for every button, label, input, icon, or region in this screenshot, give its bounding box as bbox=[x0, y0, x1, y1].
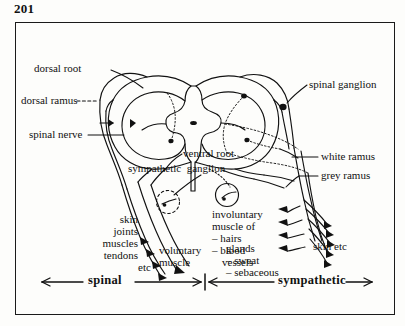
label-glands-sweat: – sweat bbox=[226, 255, 259, 267]
footer-label-spinal: spinal bbox=[88, 275, 122, 287]
sympathetic-chain-trunk bbox=[294, 148, 327, 252]
label-ventral-root: ventral root bbox=[183, 148, 234, 160]
label-skin-etc-right: skin etc bbox=[313, 241, 347, 253]
cord-outline-left bbox=[108, 76, 191, 169]
postganglionic-fibres-targets bbox=[278, 206, 305, 252]
label-target-muscles: muscles bbox=[85, 238, 138, 250]
label-dorsal-root: dorsal root bbox=[34, 63, 81, 75]
label-voluntary-muscle-line1: voluntary muscle bbox=[159, 245, 201, 268]
label-spinal-ganglion: spinal ganglion bbox=[309, 79, 377, 91]
figure-frame: dorsal root dorsal ramus spinal nerve ve… bbox=[15, 22, 395, 315]
label-involuntary-muscle-line1: involuntary bbox=[212, 209, 263, 221]
label-grey-ramus: grey ramus bbox=[321, 170, 370, 182]
page-canvas: 201 bbox=[0, 0, 405, 326]
label-glands-sebaceous: – sebaceous bbox=[226, 267, 279, 279]
label-involuntary-muscle-line2: muscle of bbox=[212, 221, 255, 233]
label-target-tendons: tendons bbox=[82, 250, 138, 262]
footer-label-sympathetic: sympathetic bbox=[278, 275, 346, 287]
label-white-ramus: white ramus bbox=[321, 151, 375, 163]
page-number: 201 bbox=[14, 1, 34, 17]
grey-matter-outline bbox=[166, 86, 221, 191]
label-dorsal-ramus: dorsal ramus bbox=[21, 95, 78, 107]
internal-tracts bbox=[167, 93, 308, 173]
dorsal-ramus-branch bbox=[100, 119, 114, 127]
label-sympathetic-ganglion: sympathetic ganglion bbox=[128, 163, 225, 175]
sympathetic-ganglion-left-dashed bbox=[157, 191, 180, 214]
dorsal-root-pathway-right bbox=[240, 75, 294, 149]
label-glands: glands bbox=[226, 243, 255, 255]
label-target-skin: skin bbox=[90, 214, 138, 226]
label-target-joints: joints bbox=[90, 226, 138, 238]
label-target-etc: etc bbox=[138, 262, 151, 274]
label-spinal-nerve: spinal nerve bbox=[29, 129, 82, 141]
sympathetic-ganglion-centre bbox=[216, 184, 239, 207]
